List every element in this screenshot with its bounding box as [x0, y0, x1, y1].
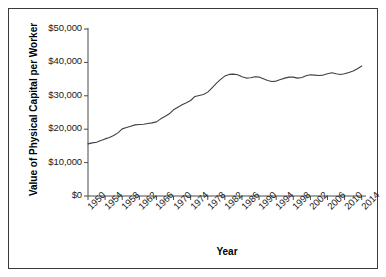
chart-axes — [88, 28, 366, 196]
data-series-line — [88, 66, 362, 144]
chart-tick-marks — [84, 29, 362, 200]
chart-figure: $50,000$40,000$30,000$20,000$10,000$0 19… — [0, 0, 386, 277]
x-axis-title: Year — [88, 246, 366, 257]
y-axis-title: Value of Physical Capital per Worker — [28, 5, 39, 215]
chart-plot-area — [0, 0, 386, 277]
